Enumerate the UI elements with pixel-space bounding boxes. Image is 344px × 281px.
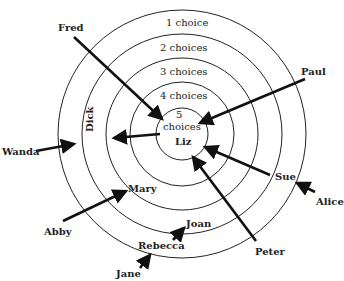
- person-mary: Mary: [128, 183, 157, 194]
- ring-label-4: 4 choices: [160, 90, 207, 101]
- person-jane: Jane: [116, 268, 141, 279]
- ring-2: [82, 34, 282, 234]
- ring-label-2: 2 choices: [160, 42, 207, 53]
- person-liz: Liz: [175, 136, 192, 147]
- person-joan: Joan: [186, 218, 211, 229]
- arrow-liz-dick: [114, 134, 160, 138]
- person-fred: Fred: [58, 22, 84, 33]
- person-sue: Sue: [275, 171, 296, 182]
- arrow-alice-sue: [297, 183, 315, 192]
- person-alice: Alice: [316, 196, 344, 207]
- person-dick: Dick: [84, 107, 95, 133]
- ring-label-5: 5: [176, 109, 182, 120]
- person-peter: Peter: [255, 246, 285, 257]
- arrow-paul-liz: [200, 79, 305, 123]
- ring-label-1: 1 choice: [166, 17, 208, 28]
- ring-label-5-sub: choices: [163, 121, 201, 132]
- person-rebecca: Rebecca: [138, 240, 185, 251]
- ring-label-3: 3 choices: [160, 66, 207, 77]
- person-wanda: Wanda: [2, 146, 40, 157]
- arrow-abby-mary: [63, 191, 126, 221]
- person-paul: Paul: [301, 66, 326, 77]
- person-abby: Abby: [44, 226, 72, 237]
- arrow-wanda-dick: [36, 144, 74, 151]
- arrow-sue-liz: [205, 147, 270, 175]
- arrow-jane-rebecca: [140, 255, 150, 268]
